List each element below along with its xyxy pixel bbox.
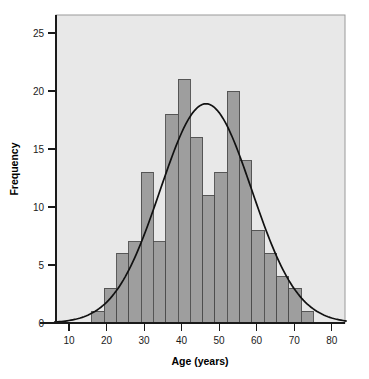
y-axis-title: Frequency: [8, 142, 20, 195]
x-tick-label: 80: [326, 335, 338, 346]
histogram-bar: [252, 230, 264, 323]
y-tick-labels: 0510152025: [33, 28, 45, 329]
histogram-bar: [141, 172, 153, 323]
histogram-bar: [153, 242, 165, 323]
x-tick-label: 60: [251, 335, 263, 346]
y-tick-label: 25: [33, 28, 45, 39]
x-tick-label: 70: [289, 335, 301, 346]
x-axis-title: Age (years): [171, 355, 228, 367]
y-tick-label: 10: [33, 202, 45, 213]
y-tick-label: 0: [38, 318, 44, 329]
histogram-bar: [215, 172, 227, 323]
x-tick-labels: 1020304050607080: [63, 335, 337, 346]
histogram-bar: [301, 311, 313, 323]
x-tick-label: 40: [176, 335, 188, 346]
histogram-bar: [289, 288, 301, 323]
histogram-figure: 0510152025 1020304050607080 Frequency Ag…: [0, 0, 369, 379]
x-tick-label: 20: [101, 335, 113, 346]
histogram-bar: [277, 277, 289, 323]
x-tick-label: 10: [63, 335, 75, 346]
y-tick-label: 20: [33, 86, 45, 97]
histogram-bar: [190, 137, 202, 323]
histogram-bar: [203, 195, 215, 323]
histogram-bar: [227, 91, 239, 323]
histogram-bar: [92, 311, 104, 323]
y-tick-label: 15: [33, 144, 45, 155]
y-tick-label: 5: [38, 260, 44, 271]
histogram-bar: [178, 79, 190, 323]
histogram-bar: [264, 253, 276, 323]
x-tick-label: 30: [139, 335, 151, 346]
chart-canvas: 0510152025 1020304050607080 Frequency Ag…: [0, 0, 369, 379]
x-tick-label: 50: [214, 335, 226, 346]
histogram-bar: [129, 242, 141, 323]
